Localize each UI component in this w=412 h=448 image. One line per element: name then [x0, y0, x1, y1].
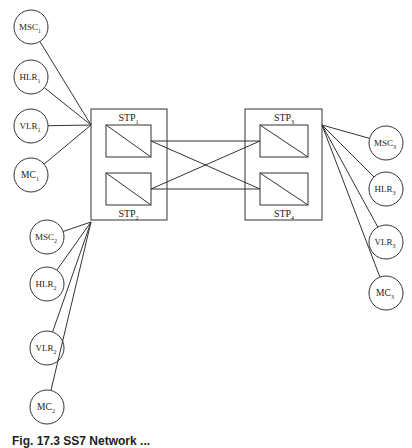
entity-group-3: MSC3HLR3VLR3MC3 — [322, 125, 403, 310]
signaling-link — [48, 125, 91, 126]
stp-node-stp1[interactable]: STP1 — [106, 112, 151, 157]
node-mc1[interactable]: MC1 — [14, 158, 48, 192]
stp-label: STP4 — [274, 208, 294, 221]
node-msc1[interactable]: MSC1 — [14, 10, 48, 44]
signaling-link — [40, 41, 91, 125]
node-msc2[interactable]: MSC2 — [30, 220, 64, 254]
entity-group-1: MSC1HLR1VLR1MC1 — [14, 10, 91, 192]
node-vlr3[interactable]: VLR3 — [369, 225, 403, 259]
node-hlr1[interactable]: HLR1 — [14, 60, 48, 94]
stp-label: STP2 — [118, 208, 138, 221]
signaling-link — [63, 222, 91, 232]
node-msc3[interactable]: MSC3 — [369, 126, 403, 160]
stp-node-stp4[interactable]: STP4 — [260, 173, 308, 221]
stp-cluster-left: STP1STP2 — [91, 109, 167, 221]
stp-node-stp3[interactable]: STP3 — [260, 112, 308, 157]
figure-caption: Fig. 17.3 SS7 Network ... — [12, 434, 150, 448]
stp-label: STP1 — [118, 112, 138, 125]
node-hlr3[interactable]: HLR3 — [369, 172, 403, 206]
signaling-link — [44, 88, 91, 125]
stp-cluster-right: STP3STP4 — [245, 109, 322, 221]
node-vlr1[interactable]: VLR1 — [14, 109, 48, 143]
node-mc2[interactable]: MC2 — [30, 390, 64, 424]
node-hlr2[interactable]: HLR2 — [30, 267, 64, 301]
stp-node-stp2[interactable]: STP2 — [106, 173, 151, 221]
signaling-link — [44, 125, 91, 164]
entity-group-2: MSC2HLR2VLR2MC2 — [30, 220, 91, 424]
stp-label: STP3 — [274, 112, 294, 125]
node-vlr2[interactable]: VLR2 — [30, 331, 64, 365]
node-mc3[interactable]: MC3 — [369, 276, 403, 310]
